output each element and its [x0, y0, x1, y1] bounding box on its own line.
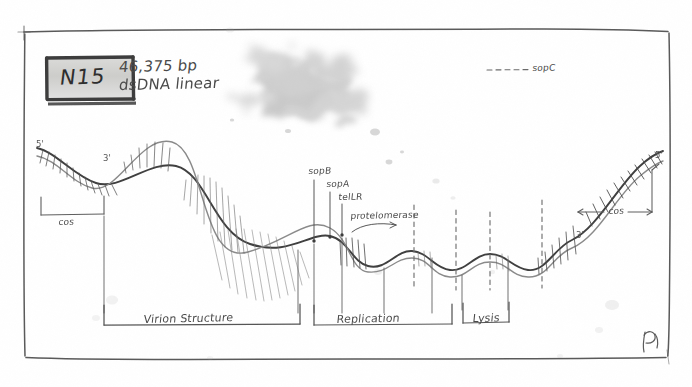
phage-label-box: [47, 57, 136, 104]
hand-drawn-artwork: [0, 0, 692, 387]
diagram-canvas: N15 46,375 bp dsDNA linear sopC sopB sop…: [0, 0, 692, 387]
